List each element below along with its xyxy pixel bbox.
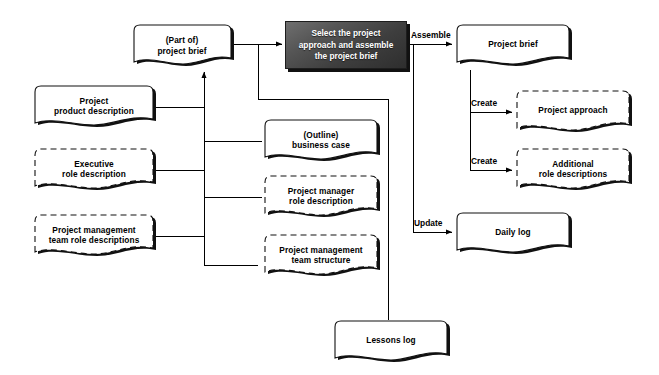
node-project-product-description[interactable]: Project product description xyxy=(30,83,158,131)
node-project-approach[interactable]: Project approach xyxy=(512,88,634,136)
edge-label-assemble: Assemble xyxy=(411,30,451,40)
node-pm-team-structure[interactable]: Project management team structure xyxy=(260,232,382,280)
node-project-brief[interactable]: Project brief xyxy=(452,22,574,70)
node-project-manager-role-description[interactable]: Project manager role description xyxy=(260,173,382,221)
node-lessons-log[interactable]: Lessons log xyxy=(330,318,452,366)
node-part-of-project-brief[interactable]: (Part of) project brief xyxy=(128,22,236,70)
edge-label-create-approach: Create xyxy=(471,98,497,108)
process-label: Select the project approach and assemble… xyxy=(286,28,406,63)
node-executive-role-description[interactable]: Executive role description xyxy=(30,146,158,194)
node-outline-business-case[interactable]: (Outline) business case xyxy=(260,117,382,165)
node-pm-team-role-descriptions[interactable]: Project management team role description… xyxy=(30,212,158,260)
node-daily-log[interactable]: Daily log xyxy=(452,210,574,258)
node-process-select-approach[interactable]: Select the project approach and assemble… xyxy=(285,21,407,69)
node-additional-role-descriptions[interactable]: Additional role descriptions xyxy=(512,146,634,194)
process-flow-diagram: (Part of) project brief Project product … xyxy=(0,0,659,375)
edge-label-create-roles: Create xyxy=(471,156,497,166)
edge-label-update: Update xyxy=(414,218,442,228)
